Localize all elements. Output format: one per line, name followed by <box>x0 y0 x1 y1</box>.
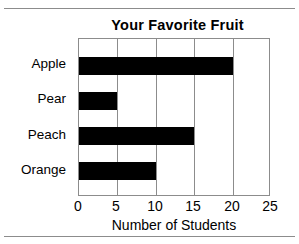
bar-chart-figure: Your Favorite Fruit ApplePearPeachOrange… <box>0 0 299 244</box>
page-rule-bottom <box>4 236 295 237</box>
x-tick-label-25: 25 <box>250 198 290 214</box>
bar-pear <box>79 92 117 110</box>
bar-orange <box>79 162 156 180</box>
x-tick-label-5: 5 <box>96 198 136 214</box>
x-axis-label: Number of Students <box>78 217 270 233</box>
x-tick-label-20: 20 <box>212 198 252 214</box>
x-tick-label-15: 15 <box>173 198 213 214</box>
y-label-orange: Orange <box>0 163 66 177</box>
y-label-apple: Apple <box>0 57 66 71</box>
y-label-peach: Peach <box>0 128 66 142</box>
bars-layer <box>79 39 269 195</box>
y-label-pear: Pear <box>0 92 66 106</box>
plot-area <box>78 38 270 196</box>
bar-apple <box>79 57 233 75</box>
x-tick-label-0: 0 <box>58 198 98 214</box>
x-tick-label-10: 10 <box>135 198 175 214</box>
page-rule-top <box>4 8 295 9</box>
bar-peach <box>79 127 194 145</box>
chart-title-text: Your Favorite Fruit <box>111 17 243 33</box>
chart-title: Your Favorite Fruit <box>0 17 299 33</box>
